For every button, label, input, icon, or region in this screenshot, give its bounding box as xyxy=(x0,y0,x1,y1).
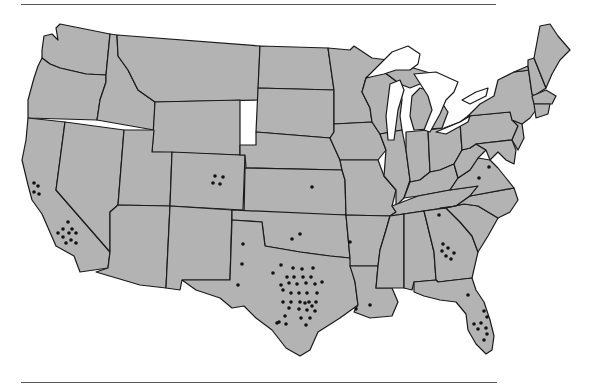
state-north-dakota xyxy=(258,46,334,90)
location-dot xyxy=(311,266,315,270)
location-dot xyxy=(304,323,308,327)
location-dot xyxy=(291,266,295,270)
location-dot xyxy=(354,307,358,311)
state-connecticut xyxy=(534,104,550,118)
location-dot xyxy=(313,282,317,286)
location-dot xyxy=(36,184,40,188)
location-dot xyxy=(482,309,486,313)
location-dot xyxy=(449,257,453,261)
location-dot xyxy=(308,316,312,320)
location-dot xyxy=(275,321,279,325)
location-dot xyxy=(287,306,291,310)
location-dot xyxy=(298,232,302,236)
location-dot xyxy=(32,190,36,194)
location-dot xyxy=(61,227,65,231)
location-dot xyxy=(74,241,78,245)
location-dot xyxy=(301,275,305,279)
location-dot xyxy=(213,174,217,178)
location-dot xyxy=(285,275,289,279)
location-dot xyxy=(485,315,489,319)
location-dot xyxy=(241,242,245,246)
location-dot xyxy=(298,300,302,304)
location-dot xyxy=(289,300,293,304)
state-nebraska xyxy=(240,132,342,170)
location-dot xyxy=(279,283,283,287)
location-dot xyxy=(290,237,294,241)
location-dot xyxy=(281,288,285,292)
state-colorado xyxy=(170,152,245,210)
location-dot xyxy=(299,316,303,320)
location-dot xyxy=(440,249,444,253)
location-dot xyxy=(221,175,225,179)
state-south-dakota xyxy=(256,88,334,138)
location-dot xyxy=(287,281,291,285)
bottom-rule xyxy=(21,382,497,383)
location-dot xyxy=(479,321,483,325)
location-dot xyxy=(315,291,319,295)
location-dot xyxy=(368,303,372,307)
location-dot xyxy=(295,282,299,286)
location-dot xyxy=(218,182,222,186)
location-dot xyxy=(320,280,324,284)
location-dot xyxy=(56,231,60,235)
location-dot xyxy=(437,213,441,217)
location-dot xyxy=(310,185,314,189)
location-dot xyxy=(309,275,313,279)
location-dot xyxy=(303,301,307,305)
location-dot xyxy=(271,271,275,275)
state-new-mexico xyxy=(166,206,232,290)
location-dot xyxy=(70,227,74,231)
location-dot xyxy=(310,304,314,308)
state-florida xyxy=(414,278,494,354)
location-dot xyxy=(484,326,488,330)
location-dot xyxy=(61,235,65,239)
location-dot xyxy=(452,251,456,255)
location-dot xyxy=(211,181,215,185)
location-dot xyxy=(283,314,287,318)
location-dot xyxy=(466,293,470,297)
location-dot xyxy=(297,307,301,311)
location-dot xyxy=(297,291,301,295)
location-dot xyxy=(304,281,308,285)
location-dot xyxy=(307,300,311,304)
location-dot xyxy=(305,291,309,295)
location-dot xyxy=(240,262,244,266)
location-dot xyxy=(313,309,317,313)
location-dot xyxy=(289,291,293,295)
location-dot xyxy=(67,231,71,235)
location-dot xyxy=(314,300,318,304)
location-dot xyxy=(66,220,70,224)
location-dot xyxy=(305,308,309,312)
location-dot xyxy=(69,238,73,242)
location-dot xyxy=(64,241,68,245)
location-dot xyxy=(292,275,296,279)
location-dot xyxy=(485,332,489,336)
location-dot xyxy=(472,322,476,326)
location-dot xyxy=(32,181,36,185)
location-dot xyxy=(284,322,288,326)
location-dot xyxy=(348,240,352,244)
location-dot xyxy=(446,246,450,250)
state-wyoming xyxy=(152,100,240,155)
location-dot xyxy=(37,192,41,196)
location-dot xyxy=(441,242,445,246)
location-dot xyxy=(281,300,285,304)
location-dot xyxy=(236,283,240,287)
location-dot xyxy=(482,338,486,342)
location-dot xyxy=(444,254,448,258)
location-dot xyxy=(477,176,481,180)
location-dot xyxy=(279,263,283,267)
location-dot xyxy=(476,327,480,331)
us-map xyxy=(0,0,593,388)
location-dot xyxy=(300,267,304,271)
state-kansas xyxy=(244,168,346,215)
location-dot xyxy=(487,165,491,169)
location-dot xyxy=(74,231,78,235)
